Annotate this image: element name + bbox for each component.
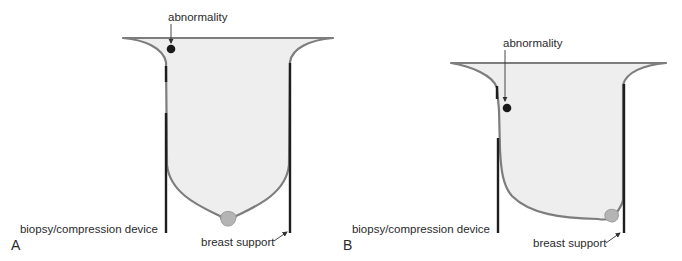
panel-a: abnormality biopsy/compression device br… bbox=[11, 11, 333, 253]
breast-tissue-b bbox=[451, 63, 666, 219]
support-label-b: breast support bbox=[533, 237, 607, 249]
abnormality-label-a: abnormality bbox=[168, 11, 228, 23]
support-label-a: breast support bbox=[201, 236, 275, 248]
breast-support-arrow-b bbox=[606, 233, 620, 243]
panel-letter-b: B bbox=[343, 237, 352, 253]
nipple-b bbox=[605, 209, 619, 222]
panel-letter-a: A bbox=[11, 237, 21, 253]
panel-b: abnormality biopsy/compression device br… bbox=[343, 37, 666, 253]
breast-support-arrow-a bbox=[274, 232, 287, 241]
abnormality-label-b: abnormality bbox=[503, 37, 563, 49]
device-label-a: biopsy/compression device bbox=[20, 223, 158, 235]
abnormality-lesion-a bbox=[167, 45, 176, 54]
device-label-b: biopsy/compression device bbox=[352, 223, 490, 235]
abnormality-lesion-b bbox=[503, 104, 512, 113]
breast-tissue-a bbox=[123, 38, 333, 221]
breast-compression-diagram: abnormality biopsy/compression device br… bbox=[0, 0, 682, 261]
nipple-a bbox=[221, 212, 236, 227]
